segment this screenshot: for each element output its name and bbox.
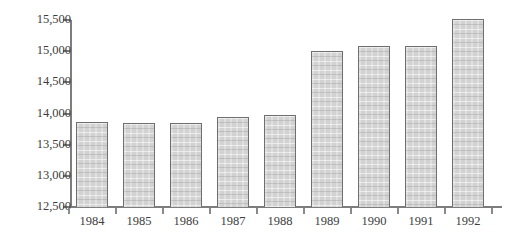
bar (452, 19, 484, 207)
x-axis-tick-label: 1992 (444, 214, 492, 228)
x-axis-tick-label: 1989 (303, 214, 351, 228)
bar (264, 115, 296, 207)
y-axis-tick-group: 15,000 (0, 50, 71, 52)
bar (123, 123, 155, 207)
y-axis-tick-label: 14,000 (15, 107, 71, 119)
y-axis-tick-group: 12,500 (0, 206, 71, 208)
bar (405, 46, 437, 207)
y-axis-tick-label: 12,500 (15, 200, 71, 212)
x-axis-tick-label: 1988 (256, 214, 304, 228)
plot-area: 12,50013,00013,50014,00014,50015,00015,5… (0, 0, 505, 245)
y-axis-tick-group: 15,500 (0, 19, 71, 21)
y-axis-tick-group: 14,000 (0, 113, 71, 115)
bar (358, 46, 390, 207)
y-axis-tick-label: 15,000 (15, 44, 71, 56)
y-axis-tick-label: 14,500 (15, 75, 71, 87)
x-axis-tick-label: 1985 (115, 214, 163, 228)
bar-chart: 12,50013,00013,50014,00014,50015,00015,5… (0, 0, 505, 245)
y-axis-tick-group: 14,500 (0, 81, 71, 83)
bar (311, 51, 343, 207)
y-axis-tick-label: 13,500 (15, 138, 71, 150)
bar (217, 117, 249, 207)
x-axis-tick-label: 1984 (68, 214, 116, 228)
y-axis-tick-label: 13,000 (15, 169, 71, 181)
x-axis-tick-label: 1991 (397, 214, 445, 228)
x-axis-tick-label: 1986 (162, 214, 210, 228)
y-axis-tick-group: 13,500 (0, 144, 71, 146)
y-axis-tick-group: 13,000 (0, 175, 71, 177)
x-axis-tick-label: 1990 (350, 214, 398, 228)
y-axis-tick-label: 15,500 (15, 13, 71, 25)
bar (76, 122, 108, 207)
bar (170, 123, 202, 207)
x-axis-tick-label: 1987 (209, 214, 257, 228)
